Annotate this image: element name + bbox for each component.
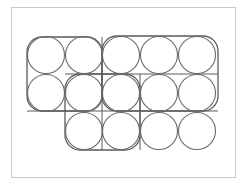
circle-r3-c2 [66, 113, 103, 150]
group-outlines [27, 36, 218, 150]
circle-r2-c5 [179, 75, 216, 112]
circle-r3-c4 [141, 113, 178, 150]
circle-r1-c4 [141, 37, 178, 74]
circle-r1-c2 [66, 37, 103, 74]
circle-r1-c1 [28, 37, 65, 74]
circle-r3-c5 [179, 113, 216, 150]
circles [28, 37, 216, 150]
circle-r1-c5 [179, 37, 216, 74]
circle-r1-c3 [103, 37, 140, 74]
circle-r3-c3 [103, 113, 140, 150]
circle-grouping-diagram [0, 0, 247, 191]
circle-r2-c1 [28, 75, 65, 112]
circle-r2-c3 [103, 75, 140, 112]
circle-r2-c4 [141, 75, 178, 112]
diagram-canvas [0, 0, 247, 191]
connector-lines [27, 37, 218, 150]
circle-r2-c2 [66, 75, 103, 112]
